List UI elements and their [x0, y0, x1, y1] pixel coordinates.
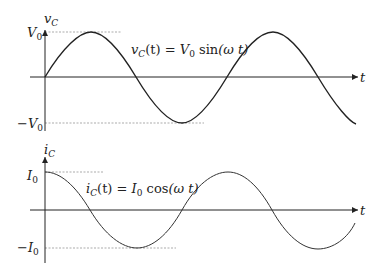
voltage-equation: vC(t) = V0 sin(ω t) — [131, 42, 248, 59]
current-min-tick-label: −I0 — [17, 240, 39, 257]
capacitor-voltage-current-diagram: vC V0 −V0 t vC(t) = V0 sin(ω t) iC I0 −I… — [0, 0, 384, 274]
current-max-tick-label: I0 — [26, 168, 38, 185]
current-x-axis-label: t — [360, 203, 366, 218]
voltage-plot: vC V0 −V0 t vC(t) = V0 sin(ω t) — [17, 11, 366, 133]
current-plot: iC I0 −I0 t iC(t) = I0 cos(ω t) — [17, 142, 366, 263]
voltage-max-tick-label: V0 — [27, 25, 42, 42]
current-equation: iC(t) = I0 cos(ω t) — [86, 181, 199, 198]
current-y-axis-label: iC — [44, 142, 55, 159]
voltage-min-tick-label: −V0 — [17, 116, 43, 133]
voltage-x-axis-label: t — [360, 70, 366, 85]
voltage-y-axis-label: vC — [44, 11, 58, 28]
